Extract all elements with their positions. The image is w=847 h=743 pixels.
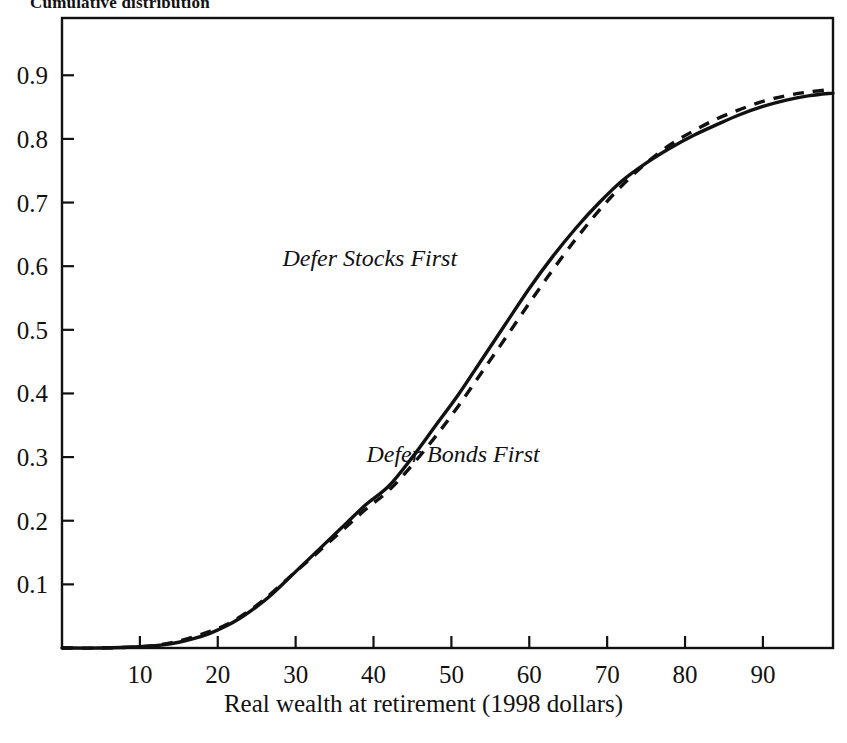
y-tick-label: 0.9 [17,62,48,89]
y-axis-tick-labels: 0.10.20.30.40.50.60.70.80.9 [17,62,49,598]
x-tick-label: 40 [361,661,386,688]
series-annotation-defer-stocks-first: Defer Stocks First [281,245,458,271]
y-tick-label: 0.3 [17,444,48,471]
x-tick-label: 10 [127,661,152,688]
y-axis-ticks [62,75,74,584]
x-tick-label: 20 [205,661,230,688]
x-axis-title: Real wealth at retirement (1998 dollars) [0,690,847,718]
x-tick-label: 50 [439,661,464,688]
x-tick-label: 70 [595,661,620,688]
cumulative-distribution-plot: 0.10.20.30.40.50.60.70.80.9 102030405060… [0,0,847,743]
x-tick-label: 90 [750,661,775,688]
series-annotation-defer-bonds-first: Defer Bonds First [365,441,541,467]
series-line-defer-bonds-first [62,89,833,648]
chart-figure: Cumulative distribution 0.10.20.30.40.50… [0,0,847,743]
y-tick-label: 0.7 [17,190,48,217]
y-tick-label: 0.4 [17,380,49,407]
series-line-defer-stocks-first [62,93,833,648]
x-axis-ticks [140,636,763,648]
y-tick-label: 0.8 [17,126,48,153]
x-axis-tick-labels: 102030405060708090 [127,661,775,688]
y-tick-label: 0.5 [17,317,48,344]
x-tick-label: 80 [673,661,698,688]
y-tick-label: 0.2 [17,508,48,535]
y-tick-label: 0.6 [17,253,48,280]
plot-frame [62,18,833,648]
y-tick-label: 0.1 [17,571,48,598]
x-tick-label: 30 [283,661,308,688]
x-tick-label: 60 [517,661,542,688]
